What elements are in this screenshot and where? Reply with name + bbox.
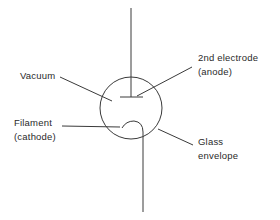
label-filament-line2: (cathode) xyxy=(14,130,56,144)
anode-leader-line xyxy=(137,67,192,96)
label-glass-line1: Glass xyxy=(198,135,238,149)
label-anode-line1: 2nd electrode xyxy=(198,51,258,65)
vacuum-tube-diagram xyxy=(0,0,280,220)
label-vacuum: Vacuum xyxy=(20,69,55,83)
label-filament: Filament (cathode) xyxy=(14,116,56,144)
label-glass-envelope: Glass envelope xyxy=(198,135,238,163)
glass-leader-line xyxy=(158,129,193,145)
filament-leader-line xyxy=(62,126,120,127)
filament-cathode xyxy=(122,121,143,212)
label-anode: 2nd electrode (anode) xyxy=(198,51,258,79)
label-filament-line1: Filament xyxy=(14,116,56,130)
label-glass-line2: envelope xyxy=(198,149,238,163)
label-anode-line2: (anode) xyxy=(198,65,258,79)
vacuum-leader-line xyxy=(60,77,112,101)
